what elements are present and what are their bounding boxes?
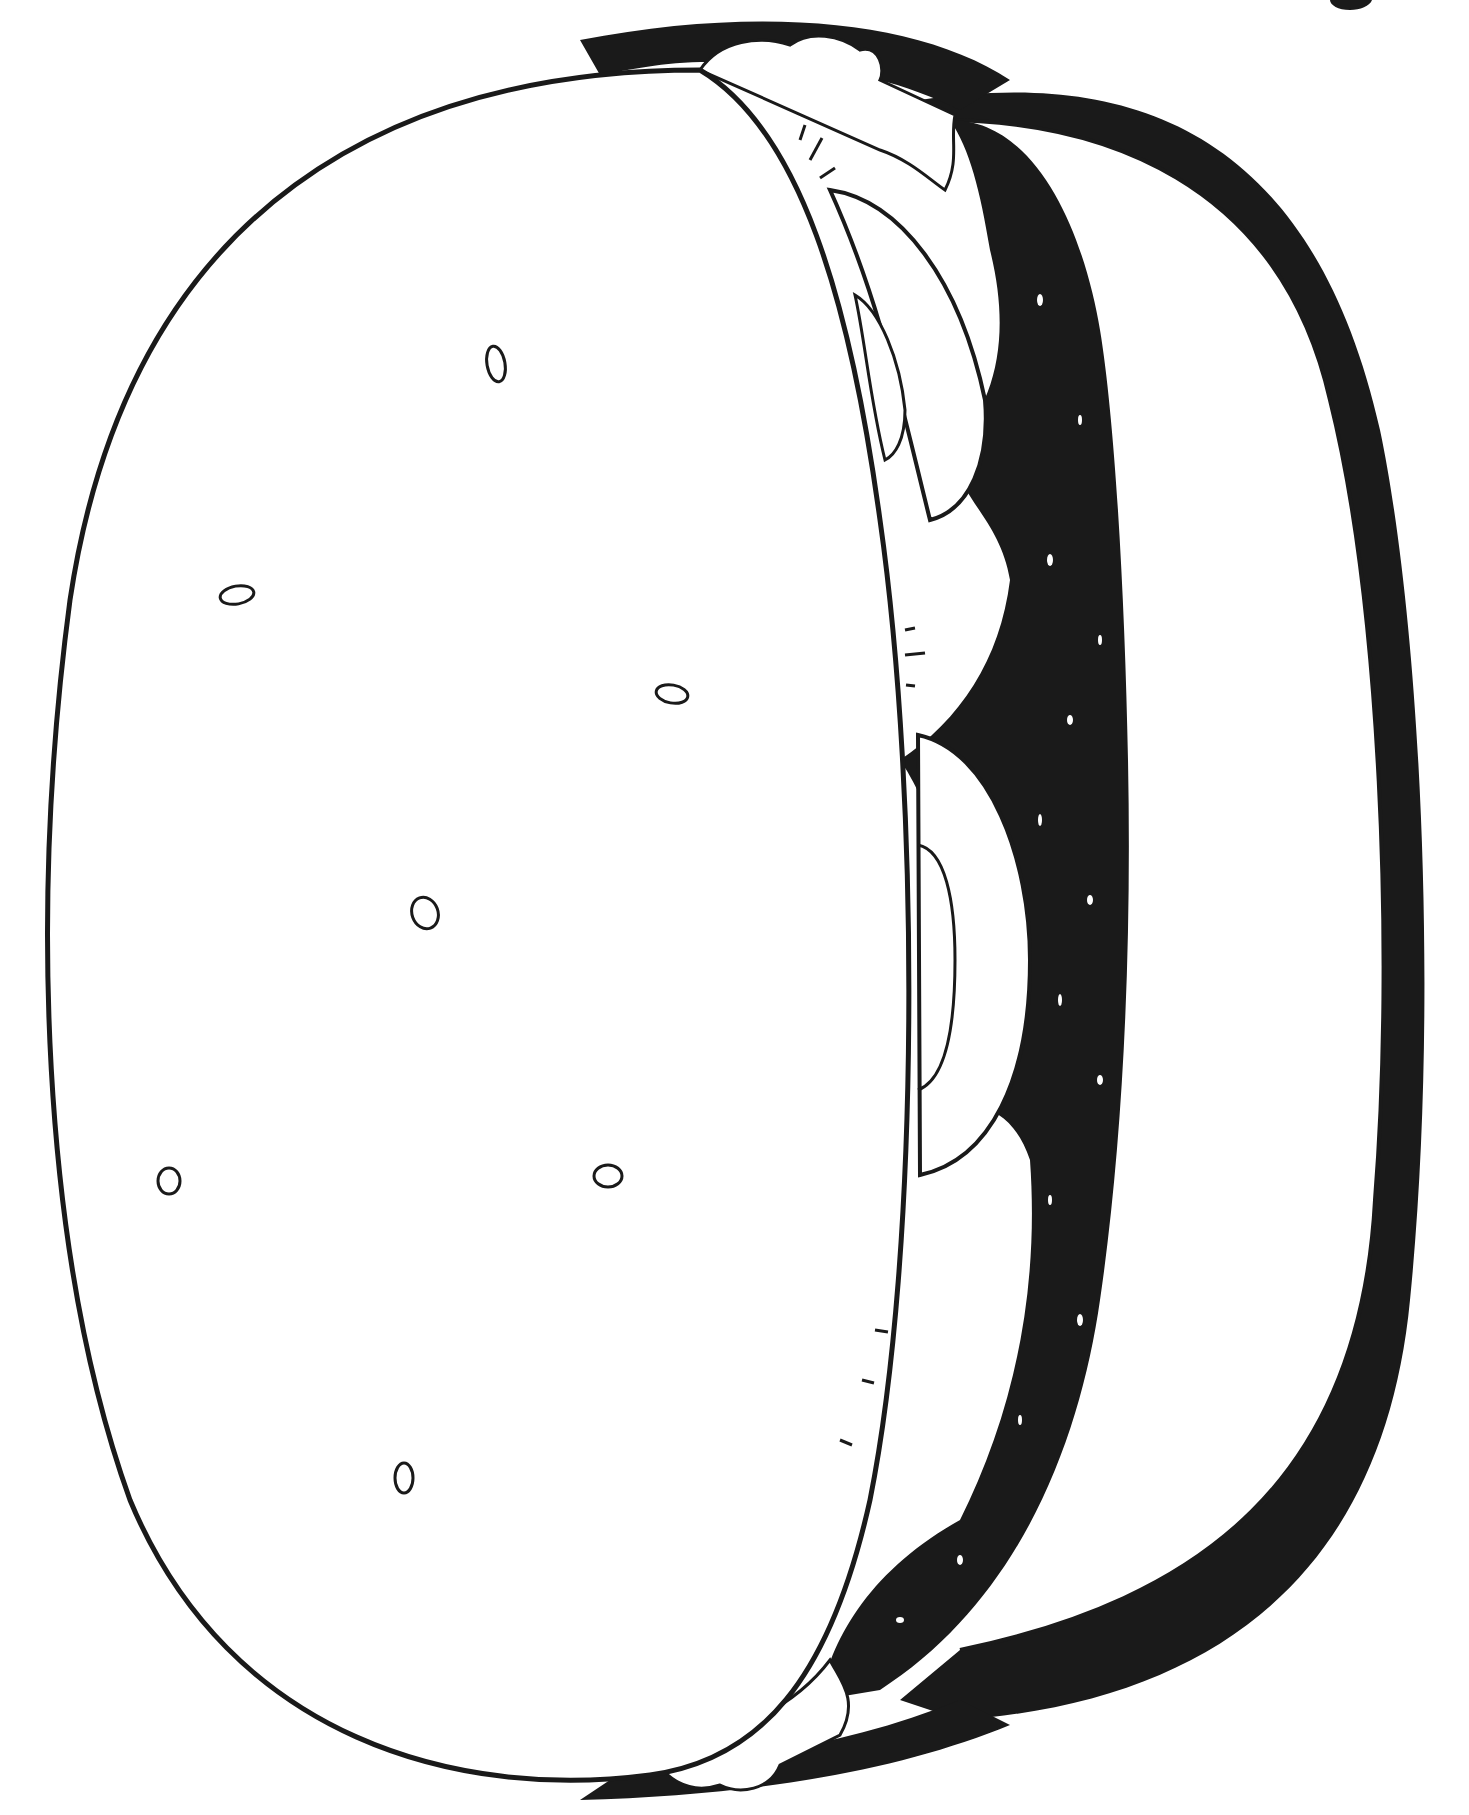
corner-fragment [1330, 0, 1372, 10]
hamburger-illustration [0, 0, 1469, 1815]
sesame-seed [395, 1463, 413, 1493]
sesame-seed [594, 1165, 622, 1187]
top-bun [48, 70, 909, 1780]
sesame-seed [158, 1168, 180, 1194]
